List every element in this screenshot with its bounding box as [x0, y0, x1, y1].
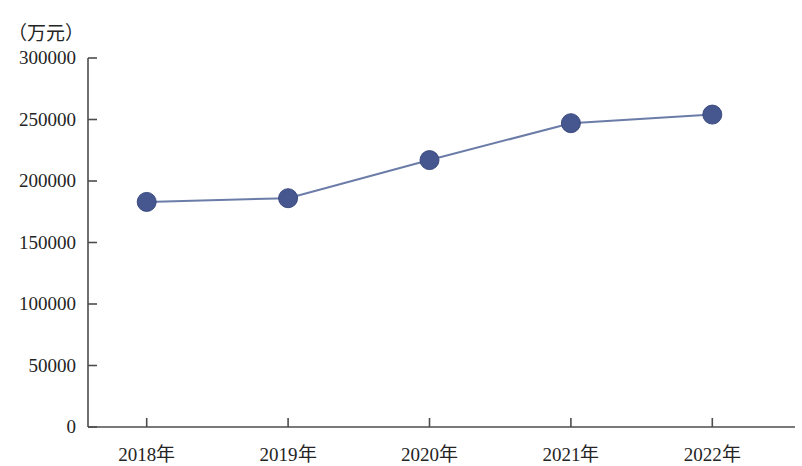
y-axis-tick-label: 0 [0, 416, 76, 438]
data-point-marker [703, 105, 722, 124]
x-axis-tick-label: 2020年 [401, 439, 458, 466]
x-axis-tick-label: 2021年 [542, 439, 599, 466]
data-point-markers [137, 105, 722, 211]
y-axis-tick-label: 150000 [0, 232, 76, 254]
data-point-marker [420, 151, 439, 170]
y-axis-tick-marks [88, 58, 97, 427]
data-point-marker [561, 114, 580, 133]
data-point-marker [137, 192, 156, 211]
axis-group [88, 58, 795, 427]
x-axis-tick-label: 2022年 [684, 439, 741, 466]
y-axis-tick-label: 300000 [0, 47, 76, 69]
y-axis-tick-label: 100000 [0, 293, 76, 315]
x-axis-tick-marks [147, 418, 713, 427]
x-axis-tick-label: 2019年 [260, 439, 317, 466]
y-axis-tick-label: 200000 [0, 170, 76, 192]
y-axis-tick-label: 50000 [0, 355, 76, 377]
x-axis-tick-label: 2018年 [118, 439, 175, 466]
data-point-marker [279, 189, 298, 208]
y-axis-tick-label: 250000 [0, 109, 76, 131]
